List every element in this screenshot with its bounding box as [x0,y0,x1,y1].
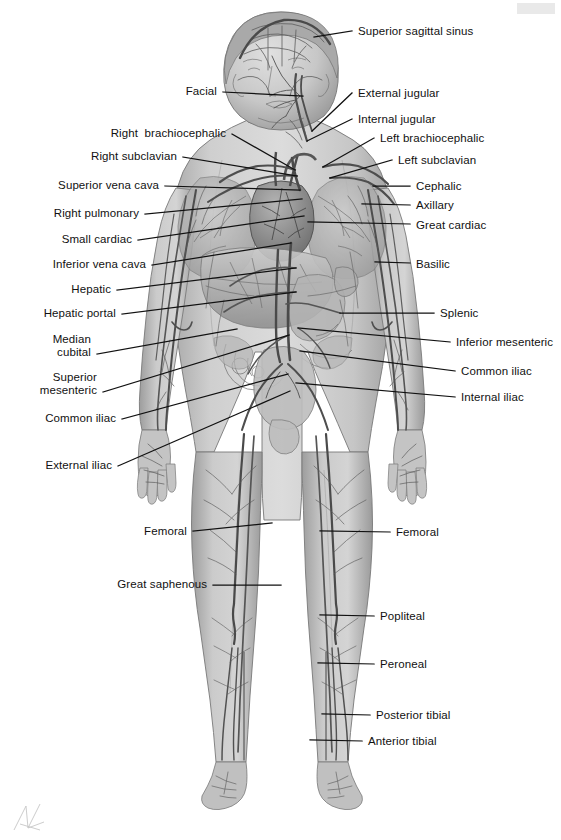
label-internal-jugular: Internal jugular [358,113,436,126]
label-facial: Facial [186,85,217,98]
label-great-saphenous: Great saphenous [117,578,207,591]
label-anterior-tibial: Anterior tibial [368,735,437,748]
label-hepatic: Hepatic [71,283,111,296]
label-right-pulmonary: Right pulmonary [54,207,139,220]
label-basilic: Basilic [416,258,450,271]
label-cephalic: Cephalic [416,180,462,193]
label-posterior-tibial: Posterior tibial [376,709,450,722]
label-left-brachiocephalic: Left brachiocephalic [380,132,484,145]
label-right-brachiocephalic: Right brachiocephalic [111,127,226,140]
label-splenic: Splenic [440,307,478,320]
label-left-subclavian: Left subclavian [398,154,476,167]
label-median-cubital: Median cubital [53,333,91,359]
label-right-subclavian: Right subclavian [91,150,177,163]
label-external-jugular: External jugular [358,87,440,100]
label-inferior-mesenteric: Inferior mesenteric [456,336,553,349]
label-femoral-left: Femoral [144,525,187,538]
label-common-iliac-left: Common iliac [45,412,116,425]
label-great-cardiac: Great cardiac [416,219,486,232]
label-inferior-vena-cava: Inferior vena cava [53,258,146,271]
label-external-iliac: External iliac [45,459,112,472]
label-common-iliac-right: Common iliac [461,365,532,378]
label-internal-iliac: Internal iliac [461,391,524,404]
label-axillary: Axillary [416,199,454,212]
label-hepatic-portal: Hepatic portal [44,307,116,320]
label-popliteal: Popliteal [380,610,425,623]
anatomy-figure-page: FacialRight brachiocephalicRight subclav… [0,0,561,840]
label-femoral-right: Femoral [396,526,439,539]
label-peroneal: Peroneal [380,658,427,671]
label-superior-mesenteric: Superior mesenteric [40,371,97,397]
artist-signature-mark [10,800,50,834]
label-small-cardiac: Small cardiac [62,233,132,246]
label-superior-vena-cava: Superior vena cava [58,179,159,192]
label-superior-sagittal-sinus: Superior sagittal sinus [358,25,473,38]
